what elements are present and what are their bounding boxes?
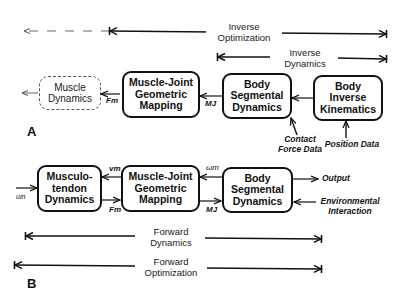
fm-signal-a: Fm: [106, 96, 118, 105]
body-segmental-line3-a: Dynamics: [232, 102, 282, 114]
forward-optimization-right-arrow: [203, 268, 321, 269]
musculotendon-dynamics-box: Musculo- tendon Dynamics: [37, 165, 102, 212]
position-data-label: Position Data: [322, 140, 382, 150]
forward-dynamics-line1: Forward: [139, 227, 203, 238]
inverse-optimization-label-line1: Inverse: [208, 22, 280, 33]
muscle-joint-line3-a: Mapping: [139, 100, 182, 112]
output-label: Output: [322, 174, 350, 184]
inverse-dynamics-label-line1: Inverse: [274, 48, 336, 59]
muscle-dynamics-line1: Muscle: [54, 82, 86, 94]
omega-signal: ωm: [206, 163, 219, 172]
muscle-dynamics-box: Muscle Dynamics: [39, 76, 101, 110]
panel-b-label: B: [27, 276, 36, 291]
forward-dynamics-label: Forward Dynamics: [137, 227, 205, 248]
muscle-joint-mapping-box-a: Muscle-Joint Geometric Mapping: [122, 71, 200, 118]
body-inverse-kinematics-box: Body Inverse Kinematics: [313, 75, 383, 121]
inverse-optimization-label-line2: Optimization: [208, 33, 280, 44]
environmental-interaction-label: Environmental Interaction: [317, 197, 383, 216]
inverse-optimization-left-arrow: [110, 31, 212, 32]
inverse-dynamics-right-arrow: [337, 58, 386, 59]
contact-force-data-label: Contact Force Data: [272, 135, 328, 154]
inverse-optimization-right-arrow: [276, 33, 386, 34]
mj-signal-a: MJ: [205, 99, 216, 108]
contact-force-line2: Force Data: [272, 145, 328, 155]
forward-optimization-line1: Forward: [137, 257, 205, 268]
musculotendon-line3: Dynamics: [45, 194, 95, 206]
inverse-dynamics-label-line2: Dynamics: [274, 59, 336, 70]
fm-signal-b: Fm: [109, 205, 121, 214]
muscle-dynamics-line2: Dynamics: [48, 93, 92, 105]
vm-signal: vm: [109, 164, 121, 173]
body-segmental-line3-b: Dynamics: [233, 196, 283, 208]
body-segmental-dynamics-box-a: Body Segmental Dynamics: [222, 73, 292, 119]
muscle-joint-mapping-box-b: Muscle-Joint Geometric Mapping: [121, 165, 200, 212]
forward-optimization-label: Forward Optimization: [135, 257, 207, 278]
muscle-joint-line3-b: Mapping: [139, 194, 182, 206]
panel-a-label: A: [27, 124, 36, 139]
forward-optimization-left-arrow: [15, 265, 135, 266]
body-segmental-dynamics-box-b: Body Segmental Dynamics: [222, 167, 293, 213]
contact-force-arrow: [291, 118, 297, 135]
environmental-line2: Interaction: [317, 207, 383, 217]
forward-dynamics-right-arrow: [203, 238, 321, 239]
uin-signal: uin: [16, 193, 25, 200]
forward-optimization-line2: Optimization: [137, 268, 205, 279]
inverse-dynamics-label: Inverse Dynamics: [272, 48, 338, 69]
inverse-optimization-label: Inverse Optimization: [206, 22, 282, 43]
mj-signal-b: MJ: [206, 205, 217, 214]
body-inverse-kinematics-line3: Kinematics: [320, 104, 376, 116]
forward-dynamics-line2: Dynamics: [139, 238, 203, 249]
